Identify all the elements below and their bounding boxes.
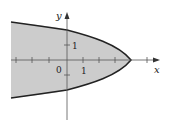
origin-label: 0	[56, 65, 62, 75]
y-axis-arrow-icon	[65, 12, 70, 19]
region-diagram: y x 0 1 1	[0, 0, 169, 124]
x-axis-arrow-icon	[153, 58, 160, 63]
x-tick-label: 1	[81, 66, 87, 76]
y-axis-label: y	[55, 10, 62, 21]
x-axis-label: x	[154, 64, 160, 75]
y-tick-label: 1	[72, 41, 78, 51]
